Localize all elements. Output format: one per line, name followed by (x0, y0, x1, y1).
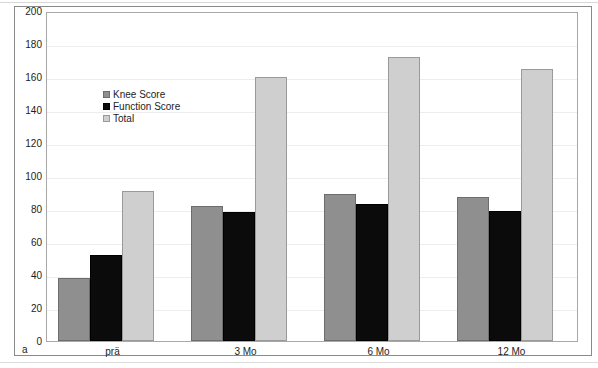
y-axis-tick-label: 20 (0, 304, 42, 314)
gridline (47, 79, 577, 80)
y-axis-tick-label: 140 (0, 106, 42, 116)
bar (457, 197, 489, 341)
x-axis-tick-label: prä (73, 346, 153, 357)
scan-rule-bottom (0, 362, 598, 363)
legend-swatch-icon (103, 91, 110, 98)
bar (223, 212, 255, 341)
panel-letter-label: a (22, 344, 28, 355)
y-axis-tick-label: 80 (0, 205, 42, 215)
legend-item: Knee Score (103, 88, 223, 100)
gridline (47, 46, 577, 47)
legend: Knee ScoreFunction ScoreTotal (103, 88, 223, 124)
legend-item: Total (103, 112, 223, 124)
bar (489, 211, 521, 341)
bar (356, 204, 388, 341)
gridline (47, 178, 577, 179)
bar (191, 206, 223, 341)
x-axis-tick-label: 3 Mo (206, 346, 286, 357)
legend-item-label: Knee Score (113, 89, 165, 100)
y-axis-tick-label: 0 (0, 337, 42, 347)
bar (122, 191, 154, 341)
bar (521, 69, 553, 341)
x-axis-tick-label: 12 Mo (472, 346, 552, 357)
figure-panel: 200180160140120100806040200 prä3 Mo6 Mo1… (0, 0, 598, 368)
plot-area (46, 12, 578, 342)
y-axis-tick-label: 100 (0, 172, 42, 182)
legend-item: Function Score (103, 100, 223, 112)
x-axis-tick-label: 6 Mo (339, 346, 419, 357)
bar (58, 278, 90, 341)
y-axis: 200180160140120100806040200 (0, 0, 42, 368)
legend-item-label: Total (113, 113, 134, 124)
gridline (47, 145, 577, 146)
bar (255, 77, 287, 341)
y-axis-tick-label: 160 (0, 73, 42, 83)
y-axis-tick-label: 120 (0, 139, 42, 149)
bar (388, 57, 420, 341)
scan-rule-top (0, 2, 598, 3)
y-axis-tick-label: 180 (0, 40, 42, 50)
legend-swatch-icon (103, 115, 110, 122)
bar (90, 255, 122, 341)
y-axis-tick-label: 200 (0, 7, 42, 17)
y-axis-tick-label: 60 (0, 238, 42, 248)
legend-item-label: Function Score (113, 101, 180, 112)
legend-swatch-icon (103, 103, 110, 110)
y-axis-tick-label: 40 (0, 271, 42, 281)
bar (324, 194, 356, 341)
